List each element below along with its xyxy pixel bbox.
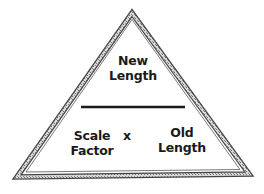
bottom-left-label-line1: Scale [62, 128, 122, 143]
triangle-border-fill [17, 13, 249, 177]
bottom-right-label-line2: Length [152, 140, 212, 155]
bottom-left-label-scale-factor: Scale Factor [62, 128, 122, 158]
multiply-operator: x [117, 128, 137, 143]
formula-triangle [0, 0, 264, 194]
top-label-line1: New [103, 53, 163, 68]
top-label-line2: Length [103, 68, 163, 83]
bottom-right-label-old-length: Old Length [152, 125, 212, 155]
top-label-new-length: New Length [103, 53, 163, 83]
triangle-outer-border [17, 13, 249, 177]
bottom-right-label-line1: Old [152, 125, 212, 140]
bottom-left-label-line2: Factor [62, 143, 122, 158]
